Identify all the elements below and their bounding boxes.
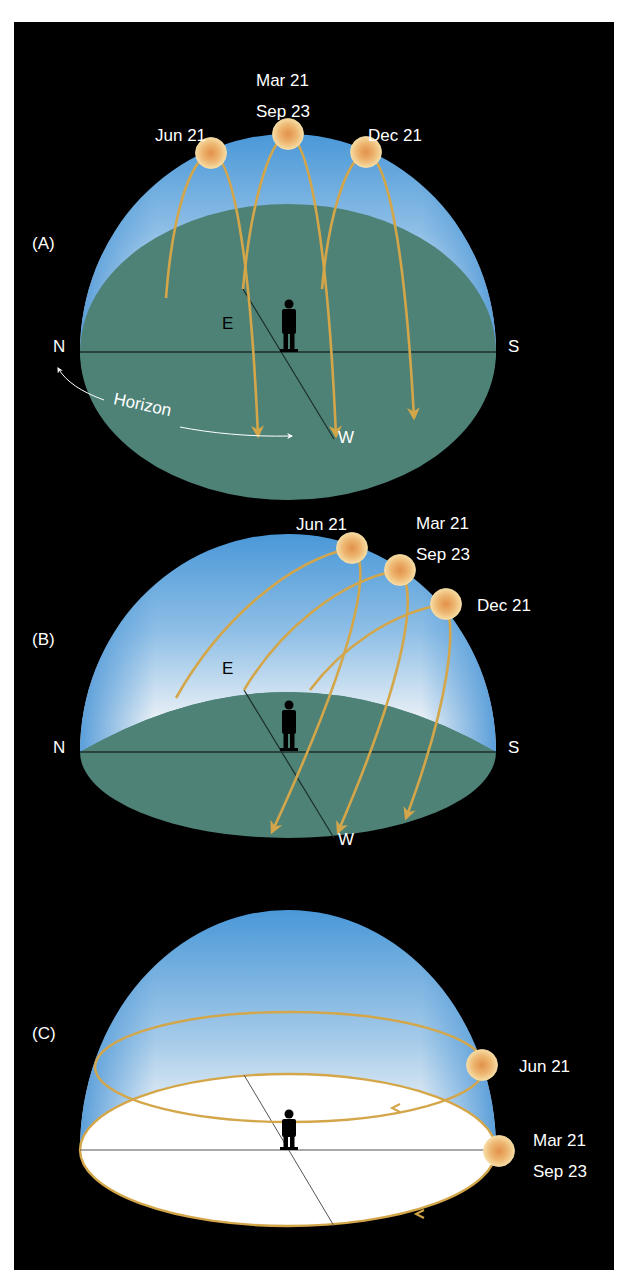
direction-south: S (508, 738, 519, 757)
sun-label-equinox-line1: Mar 21 (533, 1131, 586, 1150)
panel-label: (A) (32, 234, 55, 253)
direction-east: E (222, 314, 233, 333)
direction-west: W (338, 428, 354, 447)
direction-west: W (338, 830, 354, 849)
panel-label: (B) (32, 630, 55, 649)
sun-equinox (484, 1136, 515, 1167)
sun-paths-diagram: (A) Jun 21 Mar 21 Sep 23 Dec 21 E N S W … (0, 0, 627, 1283)
direction-north: N (53, 738, 65, 757)
sun-dec21 (431, 589, 462, 620)
sun-label-equinox-line2: Sep 23 (533, 1162, 587, 1181)
sun-label-equinox-line2: Sep 23 (416, 545, 470, 564)
sun-label-equinox-line1: Mar 21 (256, 71, 309, 90)
direction-south: S (508, 337, 519, 356)
sun-jun21 (337, 533, 368, 564)
sun-equinox (385, 555, 416, 586)
sun-label-jun21: Jun 21 (155, 126, 206, 145)
sun-label-jun21: Jun 21 (296, 515, 347, 534)
sun-jun21 (467, 1050, 498, 1081)
direction-north: N (53, 337, 65, 356)
sun-label-jun21: Jun 21 (519, 1057, 570, 1076)
sun-label-equinox-line2: Sep 23 (256, 102, 310, 121)
panel-label: (C) (32, 1024, 56, 1043)
sun-label-dec21: Dec 21 (477, 596, 531, 615)
sun-equinox (273, 119, 304, 150)
direction-east: E (222, 659, 233, 678)
sun-label-equinox-line1: Mar 21 (416, 514, 469, 533)
sun-label-dec21: Dec 21 (368, 126, 422, 145)
